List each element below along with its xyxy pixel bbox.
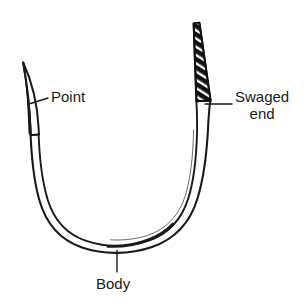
label-body: Body bbox=[96, 275, 130, 292]
swaged-end-base-line bbox=[196, 101, 210, 102]
needle-illustration bbox=[0, 0, 304, 307]
needle-diagram: Point Swaged end Body bbox=[0, 0, 304, 307]
needle-point bbox=[23, 63, 39, 136]
swaged-end-part bbox=[194, 23, 211, 102]
label-point: Point bbox=[51, 88, 85, 105]
point-cross-section-line bbox=[31, 134, 39, 135]
needle-shaft-highlight bbox=[111, 130, 194, 240]
label-swaged-end: Swaged end bbox=[235, 88, 289, 122]
label-body-text: Body bbox=[96, 275, 130, 292]
label-point-text: Point bbox=[51, 88, 85, 105]
label-swaged-end-line2: end bbox=[235, 105, 289, 122]
label-swaged-end-line1: Swaged bbox=[235, 88, 289, 105]
